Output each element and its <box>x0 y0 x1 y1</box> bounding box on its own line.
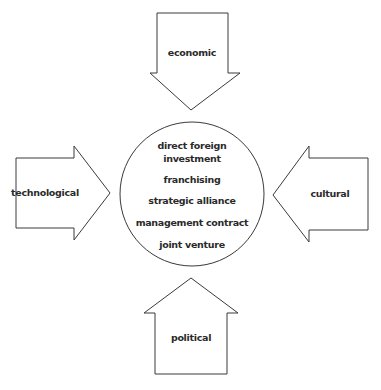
arrow-label-economic: economic <box>168 47 216 58</box>
center-circle-group: direct foreign investment franchising st… <box>120 122 264 266</box>
center-item: management contract <box>136 217 249 228</box>
center-item: investment <box>163 153 221 164</box>
up-arrow-shape <box>144 278 238 374</box>
diagram-canvas: economic technological cultural politica… <box>0 0 381 390</box>
arrow-label-cultural: cultural <box>311 188 350 199</box>
arrow-economic: economic <box>150 13 240 110</box>
center-item: direct foreign <box>157 140 227 151</box>
arrow-label-technological: technological <box>11 187 79 198</box>
center-item: joint venture <box>158 239 225 250</box>
center-item: franchising <box>164 174 221 185</box>
arrow-cultural: cultural <box>273 146 368 242</box>
arrow-political: political <box>144 278 238 374</box>
down-arrow-shape <box>150 13 240 110</box>
arrow-label-political: political <box>171 332 211 343</box>
center-item: strategic alliance <box>148 195 235 206</box>
arrow-technological: technological <box>11 146 110 240</box>
